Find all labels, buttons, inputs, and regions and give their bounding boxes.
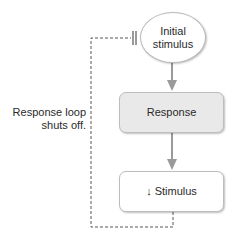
initial-stimulus-line2: stimulus: [153, 38, 193, 51]
initial-stimulus-node: Initial stimulus: [140, 12, 206, 63]
arrowhead-stimulus-to-response: [167, 80, 177, 91]
feedback-label: Response loop shuts off.: [13, 106, 86, 132]
feedback-label-line2: shuts off.: [13, 119, 86, 132]
decreased-stimulus-node: ↓ Stimulus: [119, 171, 224, 212]
down-arrow-icon: ↓: [146, 185, 152, 198]
decreased-stimulus-label: Stimulus: [155, 185, 197, 198]
initial-stimulus-line1: Initial: [153, 25, 193, 38]
response-node: Response: [119, 92, 224, 133]
arrowhead-response-to-stimulus: [167, 159, 177, 170]
response-label: Response: [147, 106, 197, 119]
feedback-label-line1: Response loop: [13, 106, 86, 119]
